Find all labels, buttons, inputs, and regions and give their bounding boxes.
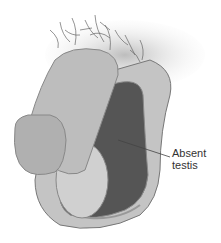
callout-label-line-1: Absent <box>172 147 206 159</box>
illustration-canvas <box>0 0 221 243</box>
glans <box>14 115 66 175</box>
anatomical-illustration: Absent testis <box>0 0 221 243</box>
callout-label-absent-testis: Absent testis <box>172 147 206 171</box>
callout-label-line-2: testis <box>172 159 206 171</box>
